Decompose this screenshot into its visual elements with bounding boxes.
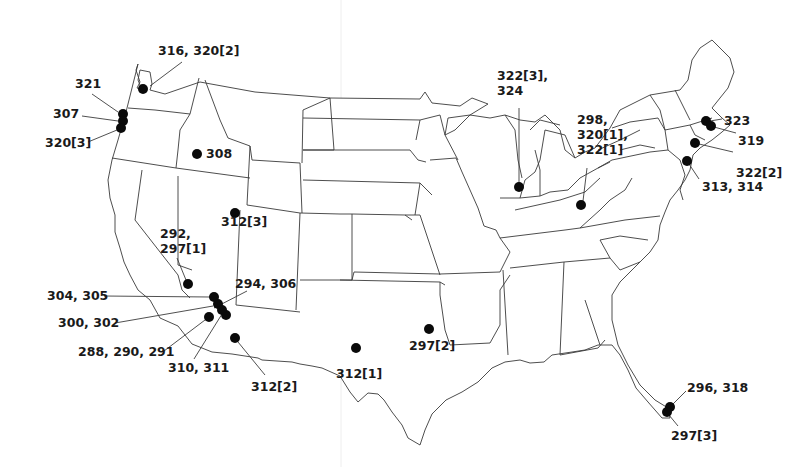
- location-label: 324: [497, 83, 523, 98]
- location-marker: [576, 200, 586, 210]
- leader-line: [673, 391, 686, 404]
- location-marker: [138, 84, 148, 94]
- location-label: 298,: [577, 112, 608, 127]
- leader-line: [699, 144, 733, 152]
- location-label: 316, 320[2]: [158, 43, 239, 58]
- location-label: 307: [53, 106, 79, 121]
- location-label: 308: [206, 146, 232, 161]
- location-marker: [230, 333, 240, 343]
- location-marker: [183, 279, 193, 289]
- location-label: 297[2]: [409, 338, 455, 353]
- location-marker: [706, 121, 716, 131]
- location-label: 296, 318: [687, 380, 748, 395]
- location-label: 312[1]: [336, 366, 382, 381]
- location-label: 322[2]: [736, 165, 782, 180]
- leader-line: [689, 164, 699, 179]
- location-marker: [192, 149, 202, 159]
- leader-line: [150, 62, 182, 86]
- location-label: 294, 306: [235, 276, 297, 291]
- location-label: 323: [724, 113, 750, 128]
- location-marker: [116, 123, 126, 133]
- location-label: 319: [738, 133, 764, 148]
- location-marker: [217, 305, 227, 315]
- location-label: 321: [75, 76, 101, 91]
- location-label: 297[3]: [671, 428, 717, 443]
- location-marker: [351, 343, 361, 353]
- location-marker: [204, 312, 214, 322]
- location-label: 304, 305: [47, 288, 108, 303]
- location-label: 310, 311: [168, 360, 229, 375]
- location-label: 320[3]: [45, 135, 91, 150]
- us-map: 316, 320[2]321307320[3]308312[3]292,297[…: [0, 0, 812, 467]
- location-label: 322[3],: [497, 68, 548, 83]
- location-marker: [662, 407, 672, 417]
- leader-line: [669, 415, 678, 426]
- leader-line: [92, 94, 118, 112]
- location-label: 320[1],: [577, 127, 628, 142]
- leader-line: [82, 116, 118, 121]
- location-label: 313, 314: [702, 179, 764, 194]
- location-label: 312[3]: [221, 214, 267, 229]
- location-label: 300, 302: [58, 315, 119, 330]
- location-label: 288, 290, 291: [78, 344, 174, 359]
- location-marker: [514, 182, 524, 192]
- location-marker: [690, 138, 700, 148]
- leader-line: [88, 130, 117, 142]
- location-label: 312[2]: [251, 379, 297, 394]
- location-label: 297[1]: [160, 241, 206, 256]
- location-label: 322[1]: [577, 142, 623, 157]
- location-marker: [424, 324, 434, 334]
- location-marker: [682, 156, 692, 166]
- location-label: 292,: [160, 226, 191, 241]
